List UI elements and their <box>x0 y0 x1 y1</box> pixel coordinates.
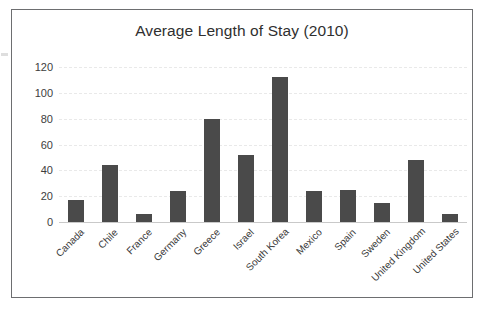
bar[interactable] <box>204 119 220 222</box>
y-tick-label: 20 <box>41 190 53 202</box>
x-tick-label-text: Spain <box>332 227 358 253</box>
plot-area: 020406080100120 <box>59 67 467 222</box>
chart-title: Average Length of Stay (2010) <box>12 22 472 40</box>
x-tick-label-text: Sweden <box>359 226 392 259</box>
bar[interactable] <box>170 191 186 222</box>
y-tick-label: 100 <box>35 87 53 99</box>
y-tick-label: 0 <box>47 216 53 228</box>
bar-series <box>59 67 467 222</box>
y-tick-label: 120 <box>35 61 53 73</box>
x-tick-label-text: France <box>124 227 154 257</box>
y-tick-label: 60 <box>41 139 53 151</box>
x-axis-tick-labels: CanadaChileFranceGermanyGreeceIsraelSout… <box>59 224 467 304</box>
bar[interactable] <box>102 165 118 222</box>
bar[interactable] <box>272 77 288 222</box>
chart-container: Average Length of Stay (2010) 0204060801… <box>11 9 473 298</box>
y-tick-label: 40 <box>41 164 53 176</box>
y-tick-label: 80 <box>41 113 53 125</box>
scan-edge-artifact <box>1 53 8 56</box>
bar[interactable] <box>238 155 254 222</box>
bar[interactable] <box>340 190 356 222</box>
bar[interactable] <box>306 191 322 222</box>
bar[interactable] <box>408 160 424 222</box>
x-tick-label-text: Canada <box>54 226 87 259</box>
x-tick-label-text: Mexico <box>294 227 324 257</box>
x-tick-label-text: Germany <box>151 226 188 263</box>
x-tick-label-text: Israel <box>231 227 256 252</box>
x-tick-label-text: Greece <box>191 226 222 257</box>
x-tick-label-text: Chile <box>96 227 120 251</box>
